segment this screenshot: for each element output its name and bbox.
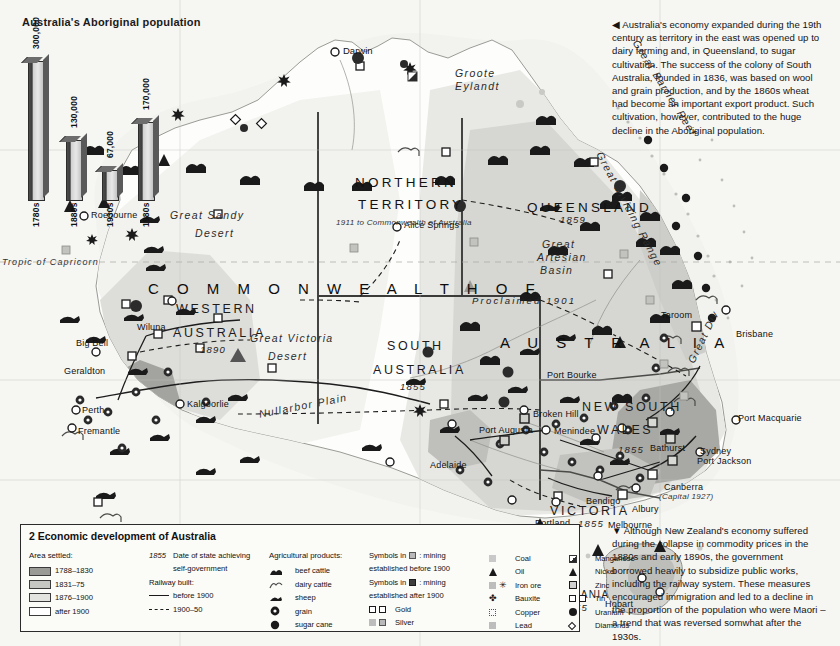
legend-area-3: after 1900 bbox=[29, 605, 149, 618]
label-menindee: Menindee bbox=[554, 427, 595, 436]
legend-state-date-line2: self-government bbox=[173, 562, 227, 575]
legend-min2-0-icon bbox=[569, 555, 595, 563]
label-taroom: Taroom bbox=[661, 311, 692, 320]
economy-note-top: ◀ Australia's economy expanded during th… bbox=[612, 18, 826, 137]
bar-category-1930s: 1930s bbox=[105, 202, 115, 227]
legend-min1-5-label: Lead bbox=[515, 619, 532, 632]
legend-min1-0: Coal bbox=[489, 552, 565, 565]
label-south-australia-2: AUSTRALIA bbox=[373, 364, 466, 377]
legend-agri-0: beef cattle bbox=[269, 564, 369, 577]
label-nullarbor-plain: Nullarbor Plain bbox=[258, 409, 348, 420]
label-port-bourke: Port Bourke bbox=[547, 371, 597, 380]
label-sa-date: 1855 bbox=[400, 382, 426, 392]
legend-min2-3-icon bbox=[569, 595, 595, 602]
bar-category-1880s: 1880s bbox=[69, 202, 79, 227]
label-port-jackson: Port Jackson bbox=[697, 457, 751, 466]
legend-area-1-icon bbox=[29, 580, 55, 589]
chart-title-text: Australia's Aboriginal population bbox=[22, 16, 201, 28]
legend-min2-1: Nickel bbox=[569, 565, 669, 578]
bar-1780s bbox=[28, 61, 45, 201]
legend-min1-2-icon: ✳ bbox=[489, 581, 515, 590]
label-victoria: VICTORIA bbox=[550, 505, 630, 518]
label-port-macquarie: Port Macquarie bbox=[738, 414, 802, 423]
legend-min2-2-label: Zinc bbox=[595, 579, 609, 592]
map-page: C O M M O N W E A L T H O F A U S T R A … bbox=[0, 0, 840, 646]
legend-area-1: 1831–75 bbox=[29, 578, 149, 591]
legend-min2-1-label: Nickel bbox=[595, 565, 616, 578]
label-northern-territory-2: TERRITORY bbox=[358, 198, 464, 212]
legend-area-3-label: after 1900 bbox=[55, 605, 89, 618]
legend-min1-0-icon bbox=[489, 555, 515, 562]
legend-min1-0-label: Coal bbox=[515, 552, 531, 565]
label-bendigo: Bendigo bbox=[586, 497, 620, 506]
legend-min2-4-icon bbox=[569, 608, 595, 616]
legend-area-settled: Area settled: 1788–18301831–751876–1900a… bbox=[29, 549, 149, 618]
legend-area-0-icon bbox=[29, 567, 55, 576]
legend-area-2-icon bbox=[29, 593, 55, 602]
label-great-victoria-desert-1: Great Victoria bbox=[250, 333, 334, 344]
legend-area-3-icon bbox=[29, 607, 55, 616]
label-brisbane: Brisbane bbox=[736, 330, 773, 339]
legend-mining-line1: Symbols in bbox=[369, 549, 406, 562]
legend-min1-1-icon bbox=[489, 568, 515, 576]
legend-mining-line1b: : mining bbox=[419, 549, 446, 562]
bar-value-1980s: 170,000 bbox=[141, 78, 151, 110]
label-queensland-date: 1859 bbox=[560, 215, 586, 225]
label-tropic-of-capricorn: Tropic of Capricorn bbox=[2, 258, 99, 267]
silver-before-icon bbox=[369, 619, 376, 626]
legend-agri-1-icon bbox=[269, 580, 295, 589]
label-kalgoorlie: Kalgoorlie bbox=[187, 400, 229, 409]
label-geraldton: Geraldton bbox=[64, 367, 105, 376]
legend-railway-1900-50: 1900–50 bbox=[173, 603, 203, 616]
silver-after-icon bbox=[379, 619, 386, 626]
label-new-south-wales-1: NEW SOUTH bbox=[582, 401, 682, 414]
legend-silver: Silver bbox=[395, 616, 414, 629]
manganese-symbols bbox=[408, 72, 417, 81]
legend-area-2-label: 1876–1900 bbox=[55, 591, 93, 604]
legend-min2-5: Diamonds bbox=[569, 619, 669, 632]
legend-agri-4: sugar cane bbox=[269, 618, 369, 631]
legend-min2-0: Manganese bbox=[569, 552, 669, 565]
bar-1980s bbox=[138, 122, 155, 201]
legend-min1-3-label: Bauxite bbox=[515, 592, 540, 605]
legend-min2-2-icon bbox=[569, 581, 595, 589]
railway-dashed-icon bbox=[149, 609, 169, 610]
legend-min2-2: Zinc bbox=[569, 579, 669, 592]
label-groote-eylandt-2: Eylandt bbox=[455, 81, 500, 92]
label-nsw-date: 1855 bbox=[618, 445, 644, 455]
legend-min1-2-label: Iron ore bbox=[515, 579, 541, 592]
legend-mining-line3b: : mining bbox=[419, 576, 446, 589]
label-wa-date: 1890 bbox=[200, 345, 226, 355]
gold-before-icon bbox=[369, 606, 376, 613]
legend-area-2: 1876–1900 bbox=[29, 591, 149, 604]
label-victoria-date: 1855 bbox=[578, 519, 604, 529]
label-big-bell: Big Bell bbox=[76, 339, 108, 348]
label-adelaide: Adelaide bbox=[430, 461, 467, 470]
legend-min2-4-label: Uranium bbox=[595, 606, 624, 619]
railway-solid-icon bbox=[149, 595, 169, 596]
legend-agri-0-icon bbox=[269, 567, 295, 576]
label-albury: Albury bbox=[632, 505, 659, 514]
legend-agri-2-icon bbox=[269, 593, 295, 602]
legend-min1-3: ✤Bauxite bbox=[489, 592, 565, 605]
legend-mining-note: Symbols in : mining established before 1… bbox=[369, 549, 489, 629]
legend-agri-4-icon bbox=[269, 620, 295, 630]
legend-agri-4-label: sugar cane bbox=[295, 618, 333, 631]
legend-agri-3-label: grain bbox=[295, 605, 312, 618]
legend-mining-line2: established before 1900 bbox=[369, 562, 450, 575]
bar-1930s bbox=[102, 170, 119, 201]
legend-agri-3-icon bbox=[269, 606, 295, 616]
legend-agricultural-header: Agricultural products: bbox=[269, 549, 369, 562]
bar-category-1980s: 1980s bbox=[141, 202, 151, 227]
legend-agri-2-label: sheep bbox=[295, 591, 316, 604]
mining-after-1900-icon bbox=[409, 579, 416, 586]
legend-railway-header: Railway built: bbox=[149, 576, 194, 589]
chart-title: Australia's Aboriginal population bbox=[22, 16, 201, 28]
bar-category-1780s: 1780s bbox=[31, 202, 41, 227]
label-broken-hill: Broken Hill bbox=[533, 410, 579, 419]
aboriginal-population-chart: 300,0001780s130,0001880s67,0001930s170,0… bbox=[22, 36, 172, 201]
legend-agri-2: sheep bbox=[269, 591, 369, 604]
legend-area-0-label: 1788–1830 bbox=[55, 564, 93, 577]
legend-minerals-col1: CoalOil✳Iron ore✤BauxiteCopperLead bbox=[489, 552, 565, 632]
legend-title: 2 Economic development of Australia bbox=[29, 530, 216, 542]
